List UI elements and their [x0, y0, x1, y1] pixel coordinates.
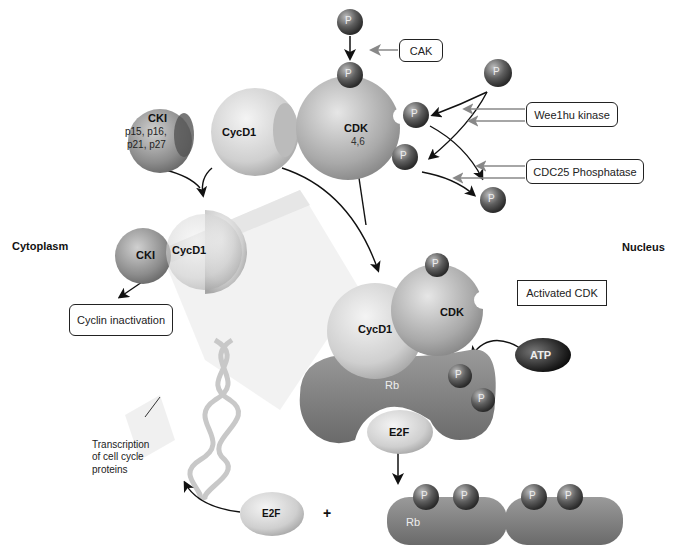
cytoplasm-label: Cytoplasm — [12, 240, 68, 252]
cyclin-inactivation-box: Cyclin inactivation — [69, 304, 173, 336]
p-label: P — [493, 66, 500, 77]
plus-sign: + — [323, 505, 331, 521]
p-label: P — [345, 68, 352, 79]
p-label: P — [455, 369, 462, 380]
cdc25-box: CDC25 Phosphatase — [526, 159, 644, 184]
cki-top-sub2: p21, p27 — [127, 139, 166, 150]
cki-top-sub1: p15, p16, — [125, 126, 167, 137]
p-label: P — [400, 150, 407, 161]
cdk-active — [391, 264, 483, 356]
transcription-line3: proteins — [92, 464, 128, 475]
cdk-cell-cycle-diagram: P P P P P P P P P P P P P Cytoplasm Nucl… — [0, 0, 675, 553]
rb-bound-label: Rb — [385, 379, 399, 391]
p-label: P — [461, 490, 468, 501]
p-label: P — [411, 108, 418, 119]
p-label: P — [488, 193, 495, 204]
transcription-line1: Transcription — [92, 438, 149, 451]
cycd1-active-label: CycD1 — [358, 323, 392, 335]
p-label: P — [565, 490, 572, 501]
e2f-free-label: E2F — [262, 508, 280, 519]
cki-top-label: CKI — [148, 112, 167, 124]
atp-label: ATP — [530, 349, 551, 361]
rb-free-left — [387, 497, 507, 545]
cdk-active-label: CDK — [440, 306, 464, 318]
cki-complex-label: CKI — [136, 249, 155, 261]
p-label: P — [529, 490, 536, 501]
p-label: P — [421, 490, 428, 501]
p-label: P — [478, 393, 485, 404]
rb-free-label: Rb — [406, 516, 420, 528]
p-label: P — [432, 258, 439, 269]
wee1-box: Wee1hu kinase — [526, 102, 618, 127]
activated-cdk-box: Activated CDK — [517, 280, 607, 306]
e2f-bound-label: E2F — [389, 426, 409, 438]
cdk-top-label: CDK — [344, 122, 368, 134]
cycd1-top-label: CycD1 — [222, 126, 256, 138]
cycd1-complex-label: CycD1 — [172, 244, 206, 256]
cak-box: CAK — [399, 39, 443, 62]
transcription-line2: of cell cycle — [92, 451, 144, 462]
p-label: P — [345, 15, 352, 26]
nucleus-label: Nucleus — [622, 241, 665, 253]
cdk-top-sub: 4,6 — [351, 136, 365, 147]
